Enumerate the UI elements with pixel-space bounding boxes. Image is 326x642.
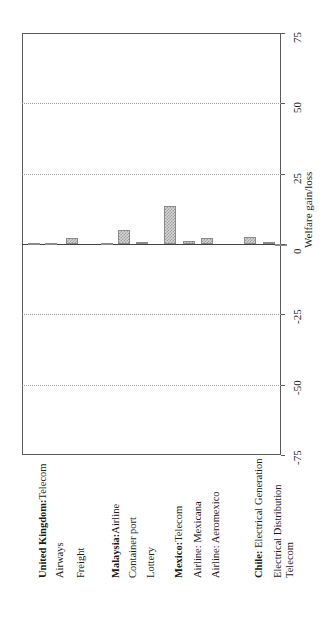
category-axis-label: Container port: [128, 517, 139, 578]
bar: [101, 243, 113, 245]
bar: [183, 241, 195, 244]
category-axis-label: United Kingdom:Telecom: [38, 464, 49, 578]
zero-axis-line: [22, 244, 281, 245]
gridline: [22, 314, 281, 315]
value-axis-tick-label: -50: [292, 380, 303, 395]
value-axis-tick-label: 75: [292, 32, 303, 43]
gridline: [22, 385, 281, 386]
gridline: [22, 174, 281, 175]
category-axis-label: Freight: [76, 548, 87, 578]
value-axis-tick-mark: [281, 33, 285, 34]
welfare-gain-loss-bar-chart: 7550250-25-50-75 Welfare gain/loss Unite…: [0, 0, 326, 642]
bar: [45, 243, 57, 245]
category-axis-label: Malaysia:Airline: [111, 504, 122, 578]
value-axis-tick-label: 0: [292, 249, 303, 255]
category-axis-label: Airline: Aeromexico: [211, 491, 222, 578]
category-axis-label: Telecom: [285, 542, 296, 578]
value-axis-tick-mark: [281, 385, 285, 386]
category-axis-label: Chile: Electrical Generation: [254, 458, 265, 578]
value-axis-tick-label: -25: [292, 310, 303, 325]
bar: [136, 242, 148, 244]
value-axis-tick-mark: [281, 314, 285, 315]
category-axis-label: Lottery: [146, 547, 157, 578]
bar: [28, 243, 40, 245]
bar: [244, 237, 256, 244]
value-axis-tick-label: 50: [292, 102, 303, 113]
category-axis-label: Mexico:Telecom: [174, 506, 185, 578]
bar: [66, 238, 78, 244]
value-axis-tick-mark: [281, 174, 285, 175]
gridline: [22, 103, 281, 104]
category-axis-label-layer: United Kingdom:TelecomAirwaysFreightMala…: [0, 458, 326, 642]
category-axis-label: Airways: [55, 542, 66, 578]
value-axis-title: Welfare gain/loss: [303, 172, 314, 248]
category-axis-label: Airline: Mexicana: [193, 501, 204, 578]
value-axis-tick-mark: [281, 244, 285, 245]
category-axis-label: Electrical Distribution: [273, 484, 284, 578]
bar: [118, 230, 130, 244]
value-axis-tick-mark: [281, 103, 285, 104]
value-axis-tick-mark: [281, 455, 285, 456]
bar: [263, 242, 275, 244]
bar: [201, 238, 213, 244]
bar: [164, 206, 176, 244]
